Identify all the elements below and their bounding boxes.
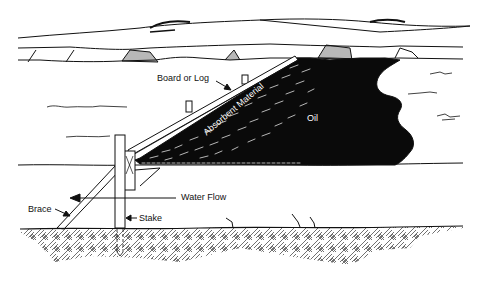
label-stake: Stake: [139, 214, 162, 223]
label-brace: Brace: [28, 205, 52, 214]
label-water-flow: Water Flow: [181, 193, 226, 202]
label-oil: Oil: [307, 114, 318, 123]
brace: [57, 165, 121, 229]
oil-barrier-diagram: [0, 0, 481, 288]
grass-tufts: [226, 214, 315, 228]
ground: [20, 226, 463, 265]
far-shoreline: [18, 19, 470, 38]
label-board-or-log: Board or Log: [157, 74, 209, 83]
